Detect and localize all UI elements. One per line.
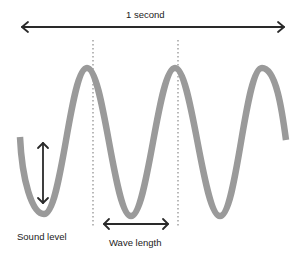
sound-wave-diagram: 1 second Sound level Wave length [0,0,303,260]
wave-length-arrow [104,219,168,229]
one-second-label: 1 second [126,9,165,20]
sound-level-label: Sound level [17,231,67,242]
diagram-graphics [0,0,303,260]
wave-length-label: Wave length [109,237,161,248]
sound-wave [20,68,286,216]
one-second-arrow [22,22,284,32]
sound-level-arrow [38,143,48,203]
